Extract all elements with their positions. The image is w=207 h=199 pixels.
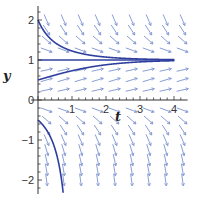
field-arrow (178, 36, 187, 44)
field-arrow (112, 14, 117, 25)
field-arrow (60, 25, 67, 35)
field-arrow (143, 88, 155, 91)
axes (31, 6, 187, 194)
field-arrow (130, 144, 134, 155)
field-arrow (41, 108, 52, 113)
y-tick-label: 2 (28, 14, 34, 26)
y-axis-label: y (2, 68, 12, 83)
field-arrow (145, 125, 152, 135)
y-tick-label: 0 (28, 94, 34, 106)
field-arrow (59, 36, 68, 44)
field-arrow (143, 48, 154, 53)
field-arrow (44, 14, 49, 25)
field-arrow (110, 36, 119, 44)
field-arrow (41, 88, 53, 91)
field-arrow (127, 36, 136, 44)
field-arrow (78, 14, 83, 25)
field-arrow (77, 25, 84, 35)
field-arrow (180, 134, 185, 145)
field-arrow (45, 144, 49, 155)
field-arrow (126, 108, 137, 113)
field-arrow (161, 116, 170, 124)
solution-curve (38, 20, 174, 60)
field-arrow (109, 68, 121, 71)
field-arrow (179, 125, 186, 135)
field-arrow (178, 116, 187, 124)
field-arrow (163, 134, 168, 145)
field-arrow (61, 14, 66, 25)
field-arrow (128, 125, 135, 135)
field-arrow (42, 116, 51, 124)
field-arrow (95, 134, 100, 145)
solution-curve (38, 61, 174, 80)
field-arrow (177, 88, 189, 91)
field-arrow (58, 88, 70, 91)
field-arrow (93, 36, 102, 44)
x-tick-label: 3 (137, 103, 143, 115)
field-arrow (78, 134, 83, 145)
x-tick-label: 2 (103, 103, 109, 115)
field-arrow (177, 78, 189, 82)
field-arrow (94, 25, 101, 35)
field-arrow (146, 134, 151, 145)
slope-field-chart: 1234210−1−2 t y (0, 0, 207, 199)
field-arrow (92, 88, 104, 91)
field-arrow (161, 36, 170, 44)
field-arrow (58, 68, 70, 71)
y-tick-label: 1 (28, 54, 34, 66)
field-arrow (92, 78, 104, 82)
field-arrow (75, 78, 87, 82)
field-arrow (179, 25, 186, 35)
field-arrow (60, 125, 67, 135)
field-arrow (95, 14, 100, 25)
field-arrow (143, 108, 154, 113)
field-arrow (126, 78, 138, 82)
field-arrow (61, 134, 66, 145)
field-arrow (76, 116, 85, 124)
field-arrow (181, 144, 185, 155)
field-arrow (112, 134, 117, 145)
x-tick-label: 1 (69, 103, 75, 115)
field-arrow (111, 125, 118, 135)
field-arrow (109, 88, 121, 91)
field-arrow (92, 108, 103, 113)
field-arrow (44, 134, 49, 145)
field-arrow (58, 108, 69, 113)
field-arrow (62, 144, 66, 155)
field-arrow (164, 144, 168, 155)
field-arrow (109, 78, 121, 82)
field-arrow (144, 36, 153, 44)
field-arrow (146, 14, 151, 25)
field-arrow (127, 116, 136, 124)
field-arrow (92, 48, 103, 53)
field-arrow (160, 68, 172, 71)
field-arrow (77, 125, 84, 135)
field-arrow (76, 36, 85, 44)
field-arrow (126, 48, 137, 53)
y-tick-label: −1 (21, 134, 34, 146)
field-arrow (94, 125, 101, 135)
field-arrow (143, 68, 155, 71)
field-arrow (160, 108, 171, 113)
field-arrow (41, 48, 52, 53)
field-arrow (180, 14, 185, 25)
field-arrow (160, 88, 172, 91)
field-arrow (162, 125, 169, 135)
field-arrow (147, 144, 151, 155)
field-arrow (79, 144, 83, 155)
field-arrow (160, 78, 172, 82)
solution-curve (38, 120, 63, 193)
field-arrow (111, 25, 118, 35)
field-arrow (75, 108, 86, 113)
field-arrow (129, 134, 134, 145)
field-arrow (145, 25, 152, 35)
field-arrow (160, 48, 171, 53)
field-arrow (58, 78, 70, 82)
field-arrow (75, 88, 87, 91)
field-arrow (129, 14, 134, 25)
field-arrow (177, 68, 189, 71)
field-arrow (177, 108, 188, 113)
field-arrow (128, 25, 135, 35)
field-arrow (59, 116, 68, 124)
field-arrow (144, 116, 153, 124)
